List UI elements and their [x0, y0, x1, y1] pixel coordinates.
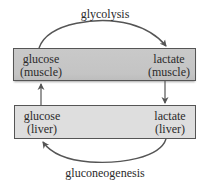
- lactate-liver-location: (liver): [148, 123, 192, 136]
- glycolysis-arrow: [39, 21, 166, 48]
- cori-cycle-diagram: glycolysis gluconeogenesis glucose (musc…: [0, 0, 207, 188]
- glucose-muscle-node: glucose (muscle): [18, 53, 64, 79]
- lactate-muscle-location: (muscle): [146, 66, 192, 79]
- gluconeogenesis-label: gluconeogenesis: [55, 167, 155, 180]
- gluconeogenesis-arrow: [43, 139, 166, 162]
- glucose-liver-node: glucose (liver): [20, 110, 64, 136]
- glucose-liver-location: (liver): [20, 123, 64, 136]
- arrows-layer: [0, 0, 207, 188]
- glucose-muscle-location: (muscle): [18, 66, 64, 79]
- lactate-muscle-node: lactate (muscle): [146, 53, 192, 79]
- lactate-liver-node: lactate (liver): [148, 110, 192, 136]
- glycolysis-label: glycolysis: [60, 8, 150, 21]
